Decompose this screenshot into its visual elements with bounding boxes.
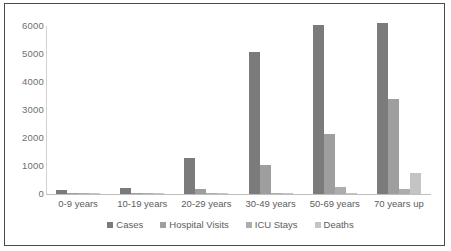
x-tick-label: 50-69 years — [310, 197, 360, 211]
bar-group — [110, 26, 174, 194]
y-tick-label: 0 — [8, 189, 44, 199]
legend-item[interactable]: Deaths — [315, 220, 354, 230]
bar[interactable] — [89, 193, 100, 194]
bar-group — [46, 26, 110, 194]
bar[interactable] — [324, 134, 335, 194]
y-tick-label: 1000 — [8, 161, 44, 171]
x-tick-label: 30-49 years — [245, 197, 295, 211]
bar[interactable] — [335, 187, 346, 194]
bar[interactable] — [388, 99, 399, 194]
legend-label: Cases — [116, 220, 143, 230]
legend-item[interactable]: Hospital Visits — [160, 220, 229, 230]
chart-frame: 0100020003000400050006000 0-9 years10-19… — [4, 3, 445, 246]
bar-group — [367, 26, 431, 194]
x-tick-label: 20-29 years — [181, 197, 231, 211]
bar[interactable] — [271, 193, 282, 194]
bar[interactable] — [313, 25, 324, 194]
bar[interactable] — [67, 193, 78, 194]
bar-group — [303, 26, 367, 194]
bar[interactable] — [282, 193, 293, 194]
legend-swatch-icon — [246, 222, 252, 228]
x-tick-label: 0-9 years — [58, 197, 98, 211]
legend-swatch-icon — [107, 222, 113, 228]
y-tick-label: 4000 — [8, 77, 44, 87]
bar[interactable] — [410, 173, 421, 194]
y-axis-tick-labels: 0100020003000400050006000 — [5, 4, 44, 251]
bar[interactable] — [142, 193, 153, 194]
x-axis-baseline — [46, 194, 431, 195]
legend-swatch-icon — [315, 222, 321, 228]
y-tick-label: 3000 — [8, 105, 44, 115]
bar[interactable] — [153, 193, 164, 194]
y-tick-label: 5000 — [8, 49, 44, 59]
x-axis-tick-labels: 0-9 years10-19 years20-29 years30-49 yea… — [46, 197, 431, 213]
x-tick-label: 70 years up — [374, 197, 424, 211]
bar[interactable] — [249, 52, 260, 194]
bar[interactable] — [56, 190, 67, 194]
bar[interactable] — [78, 193, 89, 194]
legend-item[interactable]: ICU Stays — [246, 220, 298, 230]
plot-area — [46, 26, 431, 194]
legend-swatch-icon — [160, 222, 166, 228]
bar-group — [174, 26, 238, 194]
bar[interactable] — [206, 193, 217, 194]
chart-legend: CasesHospital VisitsICU StaysDeaths — [5, 220, 451, 230]
bar[interactable] — [184, 158, 195, 194]
bar-group — [239, 26, 303, 194]
bar[interactable] — [260, 165, 271, 194]
y-tick-label: 2000 — [8, 133, 44, 143]
legend-item[interactable]: Cases — [107, 220, 143, 230]
bar[interactable] — [195, 189, 206, 194]
legend-label: Deaths — [324, 220, 354, 230]
bar[interactable] — [120, 188, 131, 194]
bar[interactable] — [399, 189, 410, 194]
y-tick-label: 6000 — [8, 21, 44, 31]
bar[interactable] — [346, 193, 357, 194]
x-tick-label: 10-19 years — [117, 197, 167, 211]
legend-label: Hospital Visits — [169, 220, 229, 230]
bar[interactable] — [377, 23, 388, 194]
bar[interactable] — [131, 193, 142, 194]
bar[interactable] — [217, 193, 228, 194]
legend-label: ICU Stays — [255, 220, 298, 230]
